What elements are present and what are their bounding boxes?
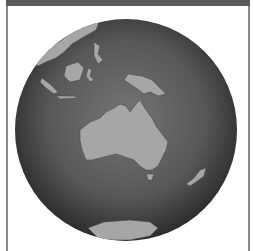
globe-image xyxy=(0,0,253,251)
